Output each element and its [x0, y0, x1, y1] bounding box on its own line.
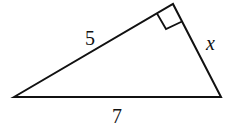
side-label-x: x — [205, 32, 215, 54]
side-label-5: 5 — [85, 27, 95, 49]
triangle — [14, 4, 221, 97]
triangle-diagram: 5 x 7 — [0, 0, 242, 128]
base-label-7: 7 — [112, 105, 122, 127]
